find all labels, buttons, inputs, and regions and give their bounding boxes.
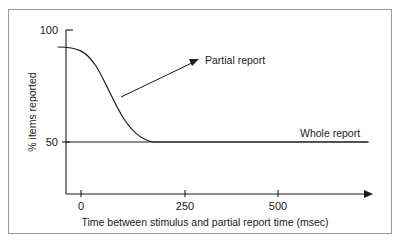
y-tick-label-50: 50 bbox=[46, 136, 58, 148]
y-tick-label-100: 100 bbox=[40, 24, 58, 36]
partial-report-arrow-icon bbox=[189, 59, 199, 66]
partial-report-label: Partial report bbox=[205, 54, 265, 66]
x-axis-title: Time between stimulus and partial report… bbox=[81, 216, 328, 228]
whole-report-label: Whole report bbox=[300, 127, 360, 139]
figure-root: 100 50 0 250 500 Partial report Whole re… bbox=[0, 0, 412, 248]
x-tick-label-500: 500 bbox=[269, 200, 287, 212]
partial-report-leader-line bbox=[121, 61, 196, 97]
chart-canvas: 100 50 0 250 500 Partial report Whole re… bbox=[0, 0, 412, 248]
x-axis-arrow-icon bbox=[364, 190, 373, 198]
x-tick-label-0: 0 bbox=[78, 200, 84, 212]
partial-report-annotation bbox=[121, 59, 199, 97]
y-axis-title: % items reported bbox=[26, 72, 38, 152]
x-tick-label-250: 250 bbox=[176, 200, 194, 212]
